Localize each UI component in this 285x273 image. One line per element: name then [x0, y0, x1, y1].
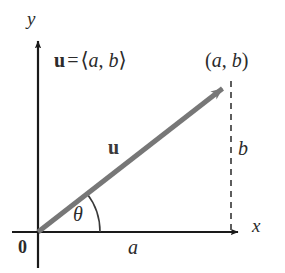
point-paren-close: ) — [242, 49, 249, 71]
x-axis-label: x — [252, 216, 260, 235]
vector-equation-comma: , — [99, 49, 104, 71]
origin-label: 0 — [18, 238, 27, 256]
y-axis-label: y — [27, 9, 35, 28]
vector-diagram-figure: y x 0 u=⟨a, b⟩ (a, b) u a b θ — [0, 0, 285, 273]
point-paren-open: ( — [205, 49, 212, 71]
component-a-label: a — [128, 237, 138, 257]
vector-equation-label: u=⟨a, b⟩ — [54, 50, 127, 71]
theta-arc — [87, 193, 100, 232]
point-component-a: a — [212, 49, 222, 71]
vector-equation-component-a: a — [89, 49, 99, 71]
point-coordinates-label: (a, b) — [205, 50, 248, 70]
component-b-label: b — [238, 138, 248, 158]
angle-bracket-open-icon: ⟨ — [80, 48, 88, 72]
vector-u-label: u — [108, 137, 119, 157]
point-component-b: b — [232, 49, 242, 71]
vector-u-arrow — [38, 89, 223, 233]
vector-equation-u: u — [54, 49, 65, 71]
angle-bracket-close-icon: ⟩ — [119, 48, 127, 72]
vector-equation-equals: = — [65, 49, 80, 71]
theta-angle-label: θ — [73, 204, 83, 224]
vector-equation-component-b: b — [109, 49, 119, 71]
point-comma: , — [222, 49, 227, 71]
